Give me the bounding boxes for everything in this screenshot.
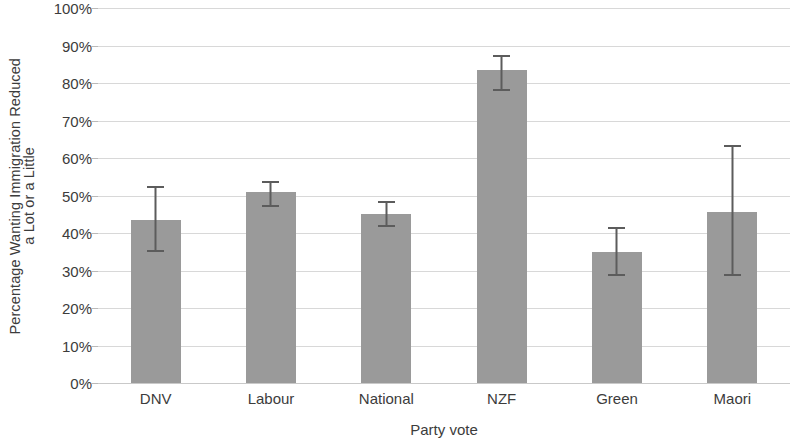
- x-tick-label: Maori: [714, 389, 752, 409]
- plot-area: [98, 8, 790, 383]
- error-bar-stem: [385, 201, 387, 227]
- y-tick-label: 90%: [40, 38, 92, 53]
- error-bar-cap-bottom: [147, 250, 164, 252]
- error-bar-cap-bottom: [262, 205, 279, 207]
- error-bar-cap-bottom: [493, 89, 510, 91]
- y-axis-tickmark: [91, 308, 98, 309]
- y-axis-title-line-1: Percentage Wanting Immigration Reduced: [8, 58, 23, 335]
- y-axis-tickmark: [91, 196, 98, 197]
- error-bar-stem: [270, 181, 272, 207]
- y-axis-tick-labels: 0%10%20%30%40%50%60%70%80%90%100%: [40, 0, 92, 446]
- y-tick-label: 0%: [40, 376, 92, 391]
- x-tick-label: NZF: [487, 389, 516, 409]
- y-tick-label: 50%: [40, 188, 92, 203]
- y-tick-label: 30%: [40, 263, 92, 278]
- y-axis-tickmark: [91, 383, 98, 384]
- error-bar: [501, 55, 502, 91]
- y-tick-label: 40%: [40, 226, 92, 241]
- gridline: [98, 383, 790, 384]
- bar-group: [675, 8, 790, 383]
- y-tick-label: 20%: [40, 301, 92, 316]
- bar: [477, 70, 527, 383]
- error-bar-cap-bottom: [378, 225, 395, 227]
- bar-group: [444, 8, 559, 383]
- error-bar-cap-top: [378, 201, 395, 203]
- error-bar-cap-top: [608, 227, 625, 229]
- error-bar-cap-top: [493, 55, 510, 57]
- bar-group: [98, 8, 213, 383]
- bar-group: [559, 8, 674, 383]
- x-axis-tick-labels: DNVLabourNationalNZFGreenMaori: [98, 389, 790, 413]
- error-bar-stem: [616, 227, 618, 276]
- y-tick-label: 60%: [40, 151, 92, 166]
- error-bar-stem: [731, 145, 733, 276]
- error-bar-stem: [155, 186, 157, 252]
- y-axis-tickmark: [91, 121, 98, 122]
- bar: [361, 214, 411, 383]
- error-bar: [616, 227, 617, 276]
- error-bar-cap-top: [724, 145, 741, 147]
- bar-chart: Percentage Wanting Immigration Reduced a…: [0, 0, 798, 446]
- y-axis-tickmark: [91, 346, 98, 347]
- y-tick-label: 100%: [40, 1, 92, 16]
- y-axis-tickmark: [91, 8, 98, 9]
- bar-group: [329, 8, 444, 383]
- bars-layer: [98, 8, 790, 383]
- error-bar: [386, 201, 387, 227]
- y-tick-label: 10%: [40, 338, 92, 353]
- error-bar-cap-bottom: [724, 274, 741, 276]
- error-bar: [155, 186, 156, 252]
- error-bar-cap-top: [262, 181, 279, 183]
- error-bar: [732, 145, 733, 276]
- y-axis-tickmark: [91, 158, 98, 159]
- error-bar-cap-bottom: [608, 274, 625, 276]
- y-axis-tickmark: [91, 271, 98, 272]
- bar-group: [213, 8, 328, 383]
- x-tick-label: Green: [596, 389, 638, 409]
- x-tick-label: DNV: [140, 389, 172, 409]
- y-axis-tickmark: [91, 233, 98, 234]
- error-bar-cap-top: [147, 186, 164, 188]
- error-bar: [270, 181, 271, 207]
- y-axis-title-line-2: a Lot or a Little: [22, 147, 37, 245]
- x-axis-title: Party vote: [98, 422, 790, 437]
- x-tick-label: Labour: [248, 389, 295, 409]
- bar: [246, 192, 296, 383]
- y-axis-tickmark: [91, 83, 98, 84]
- y-axis-tickmark: [91, 46, 98, 47]
- x-tick-label: National: [359, 389, 414, 409]
- error-bar-stem: [501, 55, 503, 91]
- y-tick-label: 80%: [40, 76, 92, 91]
- y-tick-label: 70%: [40, 113, 92, 128]
